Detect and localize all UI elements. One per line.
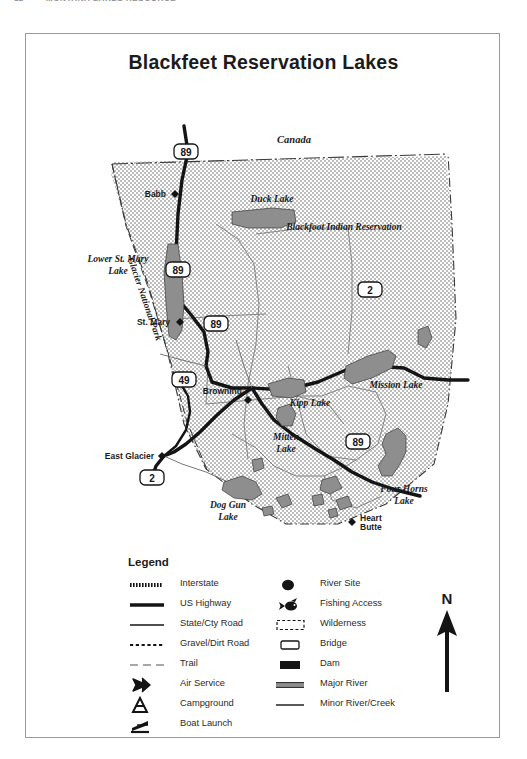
major-river-symbol-icon	[274, 675, 312, 695]
running-title: MONTANA LAKES RESOURCE	[46, 0, 176, 3]
wilderness-box-icon	[274, 615, 312, 635]
svg-text:89: 89	[352, 437, 364, 448]
highway-shield-89-north: 89	[174, 144, 198, 159]
label-duck-lake: Duck Lake	[249, 194, 294, 204]
highway-shield-2-east: 2	[358, 282, 382, 297]
north-arrow-label: N	[424, 590, 470, 607]
trail-symbol-icon	[128, 655, 172, 675]
legend-label-us-highway: US Highway	[180, 598, 231, 608]
page-number: 12	[14, 0, 23, 3]
label-babb: Babb	[145, 189, 166, 199]
legend-label-boat-launch: Boat Launch	[180, 718, 232, 728]
state-road-symbol-icon	[128, 615, 172, 635]
legend-label-trail: Trail	[180, 658, 198, 668]
legend-label-major-river: Major River	[320, 678, 368, 688]
minor-river-symbol-icon	[274, 695, 312, 715]
label-canada: Canada	[277, 134, 311, 145]
map-canvas: Canada	[56, 104, 476, 559]
lake-small-e	[312, 494, 324, 506]
dam-bar-icon	[274, 655, 312, 675]
legend-title: Legend	[128, 556, 169, 568]
label-mitten-lake-2: Lake	[275, 444, 296, 454]
bridge-box-icon	[274, 635, 312, 655]
town-dot-east-glacier	[158, 452, 166, 460]
highway-shield-49: 49	[172, 372, 196, 387]
svg-text:2: 2	[149, 473, 155, 484]
svg-text:49: 49	[178, 375, 190, 386]
legend-label-river-site: River Site	[320, 578, 360, 588]
legend-label-state-road: State/Cty Road	[180, 618, 243, 628]
label-four-horns-lake-2: Lake	[393, 496, 414, 506]
label-east-glacier: East Glacier	[105, 451, 155, 461]
legend-label-bridge: Bridge	[320, 638, 347, 648]
label-blackfoot-indian-reservation: Blackfoot Indian Reservation	[285, 222, 402, 232]
svg-text:89: 89	[210, 319, 222, 330]
label-lower-st-mary-1: Lower St. Mary	[87, 254, 150, 264]
highway-shield-89-south: 89	[346, 434, 370, 449]
legend-label-campground: Campground	[180, 698, 234, 708]
legend-label-minor-river: Minor River/Creek	[320, 698, 395, 708]
legend-label-fishing-access: Fishing Access	[320, 598, 382, 608]
map-figure-frame: Blackfeet Reservation Lakes Canada	[25, 33, 500, 738]
legend-label-air-service: Air Service	[180, 678, 225, 688]
svg-text:89: 89	[172, 265, 184, 276]
legend-label-wilderness: Wilderness	[320, 618, 366, 628]
legend-label-dam: Dam	[320, 658, 340, 668]
label-four-horns-lake-1: Four Horns	[379, 484, 428, 494]
label-dog-gun-lake-2: Lake	[217, 512, 238, 522]
us-highway-symbol-icon	[128, 595, 172, 615]
legend-label-interstate: Interstate	[180, 578, 219, 588]
lake-small-c	[262, 506, 274, 516]
airplane-icon	[128, 675, 172, 695]
label-heart-butte-2: Butte	[360, 522, 382, 532]
label-browning: Browning	[203, 386, 242, 396]
svg-text:2: 2	[367, 285, 373, 296]
page-running-header: 12 MONTANA LAKES RESOURCE	[0, 0, 527, 6]
legend-label-gravel-road: Gravel/Dirt Road	[180, 638, 249, 648]
label-dog-gun-lake-1: Dog Gun	[209, 500, 246, 510]
map-title: Blackfeet Reservation Lakes	[26, 51, 501, 74]
label-kipp-lake: Kipp Lake	[289, 398, 331, 408]
map-legend: Legend Interstate US Highway State/Cty R	[104, 556, 434, 706]
north-arrow: N	[424, 590, 470, 695]
label-st-mary: St. Mary	[137, 317, 170, 327]
highway-shield-89-browning: 89	[204, 316, 228, 331]
boat-launch-icon	[128, 715, 172, 735]
label-mission-lake: Mission Lake	[368, 380, 423, 390]
river-site-dot-icon	[274, 575, 312, 595]
label-mitten-lake-1: Mitten	[272, 432, 299, 442]
lake-small-g	[328, 508, 338, 518]
north-arrow-glyph	[424, 610, 470, 694]
svg-text:89: 89	[180, 147, 192, 158]
label-lower-st-mary-2: Lake	[107, 266, 128, 276]
fish-icon	[274, 595, 312, 615]
highway-shield-2-west: 2	[140, 470, 164, 485]
highway-shield-89-mid: 89	[166, 262, 190, 277]
tent-icon	[128, 695, 172, 715]
gravel-road-symbol-icon	[128, 635, 172, 655]
interstate-symbol-icon	[128, 575, 172, 595]
